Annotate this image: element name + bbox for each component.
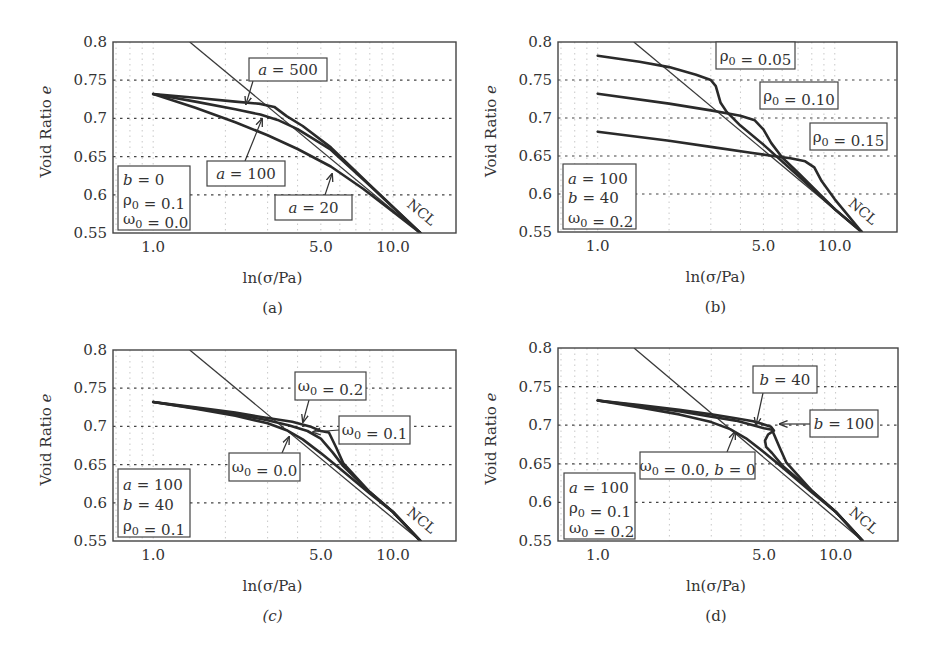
- y-axis-label: Void Ratio e: [482, 85, 500, 178]
- y-axis-label: Void Ratio e: [37, 394, 55, 487]
- y-tick-label: 0.7: [528, 109, 552, 127]
- annotation-label: a = 100: [216, 165, 276, 183]
- x-tick-label: 5.0: [751, 237, 775, 255]
- panel-c: NCL0.80.750.70.650.60.551.05.010.0ln(σ/P…: [37, 341, 456, 625]
- annotation: ρ0 = 0.05: [716, 42, 795, 69]
- x-tick-label: 1.0: [586, 237, 610, 255]
- y-tick-label: 0.65: [74, 456, 107, 474]
- y-tick-label: 0.55: [519, 223, 552, 241]
- y-tick-label: 0.6: [528, 185, 552, 203]
- panel-caption: (d): [705, 607, 726, 625]
- y-tick-label: 0.6: [83, 494, 107, 512]
- panel-b: NCL0.80.750.70.650.60.551.05.010.0ln(σ/P…: [482, 33, 897, 316]
- panel-caption: (c): [262, 607, 282, 625]
- y-tick-label: 0.75: [74, 71, 107, 89]
- y-tick-label: 0.6: [83, 186, 107, 204]
- panel-d: NCL0.80.750.70.650.60.551.05.010.0ln(σ/P…: [482, 339, 898, 625]
- x-tick-label: 5.0: [752, 546, 776, 564]
- y-tick-label: 0.65: [519, 147, 552, 165]
- parameter-line: b = 0: [123, 171, 164, 189]
- y-tick-label: 0.55: [74, 224, 107, 242]
- panel-caption: (b): [705, 298, 726, 316]
- y-tick-label: 0.8: [83, 33, 107, 51]
- y-tick-label: 0.65: [519, 455, 552, 473]
- x-tick-label: 5.0: [309, 238, 333, 256]
- x-tick-label: 5.0: [309, 546, 333, 564]
- annotation: ρ0 = 0.10: [760, 82, 838, 109]
- x-tick-label: 1.0: [586, 546, 610, 564]
- x-axis-label: ln(σ/Pa): [686, 268, 746, 286]
- annotation-label: b = 40: [760, 371, 811, 389]
- x-axis-label: ln(σ/Pa): [243, 269, 303, 287]
- panel-a: NCL0.80.750.70.650.60.551.05.010.0ln(σ/P…: [37, 33, 456, 317]
- parameter-line: b = 40: [123, 496, 174, 514]
- parameter-line: a = 100: [568, 170, 628, 188]
- y-tick-label: 0.75: [519, 71, 552, 89]
- parameter-line: a = 100: [123, 476, 183, 494]
- y-tick-label: 0.8: [528, 339, 552, 357]
- y-tick-label: 0.8: [528, 33, 552, 51]
- y-tick-label: 0.7: [528, 416, 552, 434]
- annotation-label: a = 20: [288, 199, 338, 217]
- y-tick-label: 0.55: [519, 532, 552, 550]
- y-tick-label: 0.65: [74, 148, 107, 166]
- figure: NCL0.80.750.70.650.60.551.05.010.0ln(σ/P…: [0, 0, 935, 666]
- y-tick-label: 0.6: [528, 493, 552, 511]
- y-tick-label: 0.75: [74, 379, 107, 397]
- x-tick-label: 10.0: [376, 546, 409, 564]
- annotation: ρ0 = 0.15: [810, 123, 887, 150]
- parameter-line: b = 40: [568, 189, 619, 207]
- y-tick-label: 0.75: [519, 378, 552, 396]
- x-tick-label: 10.0: [818, 237, 851, 255]
- y-tick-label: 0.8: [83, 341, 107, 359]
- x-tick-label: 1.0: [141, 546, 165, 564]
- parameter-line: a = 100: [569, 479, 629, 497]
- annotation-label: a = 500: [258, 61, 318, 79]
- annotation-label: b = 100: [814, 415, 874, 433]
- y-axis-label: Void Ratio e: [482, 393, 500, 486]
- y-tick-label: 0.7: [83, 417, 107, 435]
- x-tick-label: 1.0: [141, 238, 165, 256]
- x-axis-label: ln(σ/Pa): [686, 577, 746, 595]
- x-tick-label: 10.0: [376, 238, 409, 256]
- y-tick-label: 0.55: [74, 532, 107, 550]
- y-axis-label: Void Ratio e: [37, 86, 55, 179]
- panel-caption: (a): [262, 299, 283, 317]
- x-axis-label: ln(σ/Pa): [243, 577, 303, 595]
- y-tick-label: 0.7: [83, 109, 107, 127]
- x-tick-label: 10.0: [819, 546, 852, 564]
